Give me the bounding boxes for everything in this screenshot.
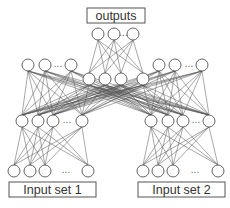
input-set-1-label: Input set 1 <box>23 183 81 197</box>
connection-line <box>22 71 28 115</box>
outputs-node <box>127 28 139 40</box>
connection-line <box>143 127 183 165</box>
outputs-box: outputs <box>87 8 145 23</box>
ellipsis-icon: ... <box>191 164 199 175</box>
right-top-hidden-node <box>153 59 165 71</box>
connection-line <box>22 127 88 165</box>
connection-line <box>158 127 209 165</box>
connection-line <box>45 127 82 165</box>
connection-line <box>121 40 133 73</box>
connection-line <box>45 127 53 165</box>
left-lower-hidden-node <box>76 115 88 127</box>
connection-line <box>202 71 209 115</box>
right-inputs-node <box>212 165 224 177</box>
right-inputs-node <box>152 165 164 177</box>
middle-hidden-node <box>83 73 95 85</box>
connection-line <box>14 127 22 165</box>
connection-line <box>89 40 133 73</box>
outputs-node <box>108 28 120 40</box>
ellipsis-icon: ... <box>62 164 70 175</box>
left-inputs-node <box>24 165 36 177</box>
ellipsis-icon: ... <box>185 58 193 69</box>
left-top-hidden-node <box>65 59 77 71</box>
connection-line <box>183 127 218 165</box>
connection-line <box>14 127 38 165</box>
outputs-label: outputs <box>95 9 136 23</box>
ellipsis-icon: ... <box>63 114 71 125</box>
connection-line <box>173 127 209 165</box>
left-top-hidden-node <box>39 59 51 71</box>
left-lower-hidden-node <box>32 115 44 127</box>
right-top-hidden-node <box>196 59 208 71</box>
left-inputs-node <box>8 165 20 177</box>
outputs-node <box>92 28 104 40</box>
right-lower-hidden-node <box>145 115 157 127</box>
input-set-2-label: Input set 2 <box>152 183 210 197</box>
connection-line <box>30 127 82 165</box>
left-inputs-node <box>82 165 94 177</box>
right-lower-hidden-node <box>162 115 174 127</box>
left-inputs-node <box>39 165 51 177</box>
connection-line <box>133 40 143 73</box>
right-lower-hidden-node <box>177 115 189 127</box>
right-top-hidden-node <box>169 59 181 71</box>
neural-network-diagram: ..................... outputs Input set … <box>0 0 230 208</box>
middle-hidden-node <box>137 73 149 85</box>
connection-line <box>14 127 82 165</box>
ellipsis-icon: ... <box>119 27 127 38</box>
connection-line <box>151 127 218 165</box>
right-lower-hidden-node <box>203 115 215 127</box>
left-lower-hidden-node <box>47 115 59 127</box>
connection-line <box>143 127 209 165</box>
connection-line <box>38 127 88 165</box>
connection-line <box>98 40 143 73</box>
connection-line <box>30 127 38 165</box>
left-lower-hidden-node <box>16 115 28 127</box>
ellipsis-icon: ... <box>192 114 200 125</box>
ellipsis-icon: ... <box>54 58 62 69</box>
connection-line <box>89 40 98 73</box>
input-set-2-box: Input set 2 <box>138 182 225 197</box>
left-top-hidden-node <box>22 59 34 71</box>
input-set-1-box: Input set 1 <box>9 182 96 197</box>
middle-hidden-node <box>99 73 111 85</box>
right-inputs-node <box>137 165 149 177</box>
middle-hidden-node <box>115 73 127 85</box>
right-inputs-node <box>167 165 179 177</box>
